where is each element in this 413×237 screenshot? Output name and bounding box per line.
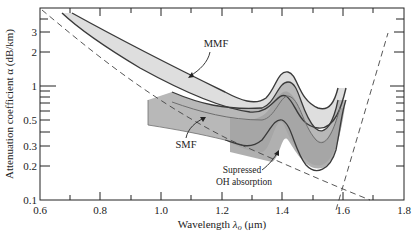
x-tick-label: 1.2 [215, 204, 229, 216]
attenuation-chart: 0.6 0.8 1.0 1.2 1.4 1.6 1.8 3 2 1 0.5 0.… [0, 0, 413, 237]
x-tick-label: 1.6 [336, 204, 350, 216]
x-tick-label: 1.4 [275, 204, 289, 216]
oh-label-line1: Supressed [223, 165, 262, 175]
x-tick-label: 1.0 [154, 204, 168, 216]
y-tick-label: 2 [32, 46, 38, 58]
y-tick-label: 3 [32, 26, 38, 38]
oh-label-line2: OH absorption [216, 177, 272, 187]
mmf-arrow [190, 52, 210, 76]
y-tick-label: 0.1 [23, 194, 37, 206]
mmf-label: MMF [204, 38, 229, 49]
x-tick-label: 1.8 [397, 204, 411, 216]
y-tick-label: 0.2 [23, 160, 37, 172]
y-axis-title: Attenuation coefficient α (dB/km) [3, 29, 16, 179]
x-axis-title: Wavelength λo (μm) [178, 218, 267, 232]
y-tick-label: 0.5 [23, 114, 37, 126]
smf-label: SMF [175, 139, 196, 150]
infrared-dashed-line [336, 33, 388, 210]
x-tick-label: 0.8 [93, 204, 107, 216]
y-tick-label: 0.3 [23, 140, 37, 152]
y-tick-label: 1 [32, 80, 38, 92]
